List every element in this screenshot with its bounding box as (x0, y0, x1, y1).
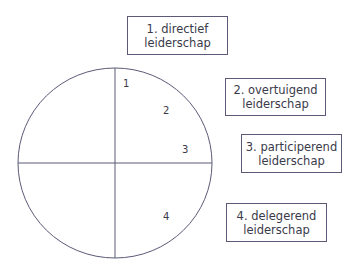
quadrant-label-1: 1 (123, 78, 129, 89)
quadrant-label-3: 3 (182, 144, 188, 155)
box-line1: 3. participerend (246, 140, 337, 154)
quadrant-label-2: 2 (163, 105, 169, 116)
box-delegerend: 4. delegerend leiderschap (226, 203, 327, 242)
box-line1: 2. overtuigend (233, 83, 317, 97)
box-line1: 1. directief (147, 22, 209, 36)
box-line2: leiderschap (144, 36, 211, 50)
quadrant-label-4: 4 (163, 211, 169, 222)
box-overtuigend: 2. overtuigend leiderschap (225, 78, 326, 116)
box-line2: leiderschap (243, 223, 310, 237)
box-line2: leiderschap (242, 97, 309, 111)
box-directief: 1. directief leiderschap (127, 16, 228, 55)
box-line1: 4. delegerend (237, 209, 317, 223)
box-participerend: 3. participerend leiderschap (241, 134, 342, 173)
box-line2: leiderschap (258, 154, 325, 168)
